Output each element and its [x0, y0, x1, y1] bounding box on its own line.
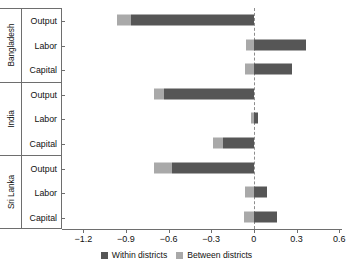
- x-axis-tick: [83, 229, 84, 233]
- bar-segment-between-districts: [154, 88, 164, 99]
- category-label-text: Output: [31, 164, 57, 174]
- category-label-text: Labor: [35, 114, 58, 124]
- category-label-row: Capital: [22, 132, 62, 157]
- category-label-row: Labor: [22, 181, 62, 206]
- bar-segment-within-districts: [172, 162, 254, 173]
- y-group-bangladesh: Bangladesh Output Labor Capital: [0, 8, 62, 82]
- category-label-row: Capital: [22, 205, 62, 230]
- bar-segment-between-districts: [246, 39, 254, 50]
- category-label-row: Output: [22, 9, 62, 34]
- legend-label: Between districts: [187, 250, 252, 260]
- bar-row: [62, 155, 342, 180]
- category-rows: Output Labor Capital: [22, 156, 62, 228]
- bar-row: [62, 106, 342, 131]
- y-group-sri-lanka: Sri Lanka Output Labor Capital: [0, 155, 62, 229]
- category-label-text: Capital: [30, 213, 57, 223]
- category-label-row: Output: [22, 83, 62, 108]
- legend-item-between-districts: Between districts: [176, 250, 252, 260]
- bar-segment-between-districts: [117, 15, 131, 26]
- category-label-text: Capital: [30, 139, 57, 149]
- group-label-sri-lanka: Sri Lanka: [0, 156, 22, 228]
- bar-row: [62, 8, 342, 33]
- x-axis-tick-label: −1.2: [74, 234, 92, 244]
- bar-segment-between-districts: [245, 187, 254, 198]
- group-label-text: India: [6, 110, 16, 128]
- group-label-text: Sri Lanka: [6, 175, 16, 209]
- bar-row: [62, 82, 342, 107]
- x-axis-tick: [254, 229, 255, 233]
- bar-segment-within-districts: [254, 113, 258, 124]
- bar-segment-within-districts: [223, 138, 254, 149]
- x-axis-tick: [339, 229, 340, 233]
- bar-segment-between-districts: [245, 64, 254, 75]
- y-axis-labels: Bangladesh Output Labor Capital India Ou…: [0, 8, 62, 229]
- x-axis-tick-label: 0.3: [290, 234, 303, 244]
- category-label-row: Labor: [22, 107, 62, 132]
- x-axis-tick-label: −0.9: [117, 234, 135, 244]
- bar-segment-within-districts: [164, 88, 254, 99]
- x-axis-line: [62, 229, 342, 230]
- x-axis-tick: [211, 229, 212, 233]
- legend-swatch-icon: [101, 252, 108, 259]
- bar-segment-between-districts: [213, 138, 222, 149]
- category-label-row: Output: [22, 156, 62, 181]
- category-label-text: Labor: [35, 188, 58, 198]
- x-axis-tick: [169, 229, 170, 233]
- group-label-text: Bangladesh: [6, 24, 16, 67]
- grouped-stacked-bar-chart: Bangladesh Output Labor Capital India Ou…: [0, 0, 353, 267]
- category-label-text: Output: [31, 90, 57, 100]
- x-axis-tick: [126, 229, 127, 233]
- x-axis-tick-label: −0.3: [202, 234, 220, 244]
- legend: Within districts Between districts: [0, 250, 353, 260]
- category-label-row: Labor: [22, 34, 62, 59]
- x-axis-tick-label: 0.6: [333, 234, 346, 244]
- category-label-row: Capital: [22, 58, 62, 83]
- bar-segment-within-districts: [254, 64, 292, 75]
- legend-item-within-districts: Within districts: [101, 250, 167, 260]
- category-rows: Output Labor Capital: [22, 83, 62, 156]
- legend-swatch-icon: [176, 252, 183, 259]
- bar-segment-between-districts: [154, 162, 172, 173]
- bar-segment-between-districts: [244, 211, 254, 222]
- x-axis-tick-label: 0: [251, 234, 256, 244]
- bar-row: [62, 180, 342, 205]
- x-axis-tick-label: −0.6: [160, 234, 178, 244]
- y-group-india: India Output Labor Capital: [0, 82, 62, 156]
- plot-area: [62, 8, 342, 229]
- bar-segment-within-districts: [254, 211, 277, 222]
- bar-row: [62, 204, 342, 229]
- legend-label: Within districts: [112, 250, 167, 260]
- category-label-text: Capital: [30, 65, 57, 75]
- bar-segment-within-districts: [254, 187, 267, 198]
- bar-segment-within-districts: [131, 15, 254, 26]
- category-label-text: Labor: [35, 41, 58, 51]
- category-rows: Output Labor Capital: [22, 9, 62, 82]
- bar-row: [62, 131, 342, 156]
- group-label-bangladesh: Bangladesh: [0, 9, 22, 82]
- bar-row: [62, 57, 342, 82]
- group-label-india: India: [0, 83, 22, 156]
- x-axis-tick: [297, 229, 298, 233]
- bar-row: [62, 33, 342, 58]
- category-label-text: Output: [31, 16, 57, 26]
- bar-segment-within-districts: [254, 39, 307, 50]
